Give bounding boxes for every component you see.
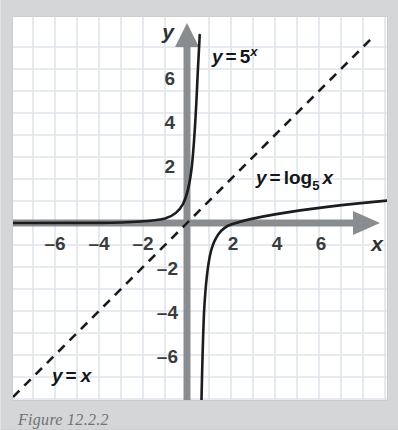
figure-caption: Figure 12.2.2: [18, 411, 109, 429]
x-tick-label-neg2: –2: [132, 233, 153, 254]
logarithmic-curve-label: y=log5x: [255, 167, 334, 193]
y-tick-label-2: 2: [164, 156, 175, 177]
y-tick-label-neg4: –4: [157, 302, 179, 323]
y-axis-label: y: [161, 20, 175, 43]
exponential-label-exponent: x: [249, 44, 258, 59]
y-tick-label-neg6: –6: [157, 346, 178, 367]
exponential-label-equals: =: [226, 46, 237, 67]
y-tick-label-4: 4: [164, 112, 175, 133]
exponential-label-base: 5: [240, 46, 251, 67]
logarithmic-label-function: log: [284, 167, 313, 188]
identity-label-rhs: x: [80, 365, 93, 386]
logarithmic-label-equals: =: [270, 167, 281, 188]
x-axis-label: x: [370, 232, 384, 255]
exponential-curve-label: y=5x: [211, 44, 258, 67]
y-tick-label-6: 6: [164, 68, 175, 89]
exponential-label-lhs: y: [211, 46, 224, 67]
x-tick-label-4: 4: [272, 233, 283, 254]
coordinate-plane-chart: –6 –4 –2 2 4 6 6 4 2 –2 –4 –6 y x: [13, 17, 387, 400]
logarithmic-label-argument: x: [321, 167, 334, 188]
y-tick-label-neg2: –2: [157, 258, 178, 279]
y-axis-arrowhead: [175, 23, 199, 47]
identity-label-lhs: y: [51, 365, 64, 386]
figure-root: –6 –4 –2 2 4 6 6 4 2 –2 –4 –6 y x: [0, 0, 398, 430]
plot-card: –6 –4 –2 2 4 6 6 4 2 –2 –4 –6 y x: [13, 17, 387, 400]
x-tick-label-neg4: –4: [88, 233, 110, 254]
x-tick-label-6: 6: [316, 233, 327, 254]
logarithmic-label-subscript: 5: [312, 178, 319, 193]
identity-label-equals: =: [66, 365, 77, 386]
x-tick-label-2: 2: [228, 233, 239, 254]
identity-curve-label: y=x: [51, 365, 93, 386]
x-tick-label-neg6: –6: [44, 233, 65, 254]
grid-lines: [13, 17, 387, 400]
logarithmic-label-lhs: y: [255, 167, 268, 188]
